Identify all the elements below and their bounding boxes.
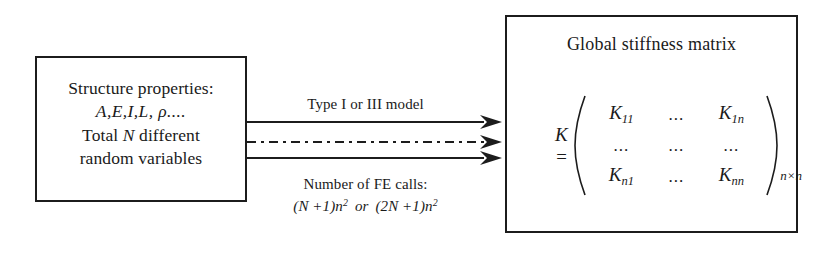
diagram-canvas: Structure properties: A,E,I,L, ρ.... Tot…: [0, 0, 831, 258]
matrix-cell-r3c2: ...: [668, 167, 684, 187]
formula-right-term: (2N +1)n: [375, 198, 432, 214]
matrix-cell-r2c3: ...: [723, 136, 739, 156]
matrix-cell-r1c1-sub: 11: [622, 112, 634, 126]
structure-properties-box: Structure properties: A,E,I,L, ρ.... Tot…: [35, 56, 247, 202]
matrix-cell-r1c3-sub: 1n: [731, 112, 744, 126]
arrow-solid-top-head: [480, 112, 502, 132]
random-variables-label: random variables: [37, 147, 245, 170]
matrix-cell-r1c3: K1n: [719, 102, 744, 127]
matrix-cell-r3c3-sub: nn: [731, 174, 744, 188]
matrix-cell-r1c2: ...: [668, 105, 684, 125]
structure-properties-heading: Structure properties:: [37, 77, 245, 100]
arrow-solid-bottom-line: [247, 157, 484, 159]
matrix-cell-r2c2: ...: [668, 136, 684, 156]
matrix-cell-r3c1: Kn1: [609, 164, 634, 189]
matrix-right-parenthesis: [766, 95, 779, 196]
arrow-solid-bottom-head: [480, 148, 502, 168]
matrix-cell-r3c3-base: K: [719, 164, 732, 185]
formula-left-term: (N +1)n: [293, 198, 343, 214]
stiffness-matrix-expression: K = K11 ... K1n ... ... ... Kn1 ... Knn: [555, 95, 802, 196]
arrow-dashdot-middle-line: [247, 141, 484, 143]
formula-right-exponent: 2: [433, 197, 438, 208]
arrow-label-type-model: Type I or III model: [247, 96, 484, 113]
total-variables-prefix: Total: [82, 125, 123, 145]
arrow-solid-top-line: [247, 121, 484, 123]
formula-operator: or: [348, 198, 376, 214]
matrix-lhs-label: K =: [555, 124, 568, 168]
global-stiffness-matrix-title: Global stiffness matrix: [507, 34, 796, 55]
arrow-label-fe-calls: Number of FE calls:: [237, 176, 494, 193]
matrix-dimension-subscript: n×n: [780, 168, 802, 196]
arrow-label-formula: (N +1)n2or(2N +1)n2: [237, 197, 494, 215]
matrix-cell-r3c3: Knn: [719, 164, 744, 189]
matrix-cell-grid: K11 ... K1n ... ... ... Kn1 ... Knn: [586, 97, 766, 194]
matrix-cell-r3c1-sub: n1: [621, 174, 634, 188]
matrix-cell-r1c1-base: K: [609, 102, 622, 123]
matrix-cell-r3c1-base: K: [609, 164, 622, 185]
matrix-cell-r1c1: K11: [609, 102, 633, 127]
structure-properties-symbols: A,E,I,L, ρ....: [37, 100, 245, 123]
total-variables-line: Total N different: [37, 124, 245, 147]
matrix-left-parenthesis: [573, 95, 586, 196]
matrix-cell-r1c3-base: K: [719, 102, 732, 123]
global-stiffness-matrix-box: Global stiffness matrix K = K11 ... K1n …: [505, 15, 798, 233]
total-variables-suffix: different: [135, 125, 200, 145]
matrix-cell-r2c1: ...: [613, 136, 629, 156]
total-variables-symbol: N: [123, 125, 135, 145]
